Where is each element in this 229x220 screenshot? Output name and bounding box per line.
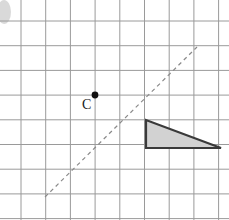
point-c-marker (92, 92, 99, 99)
geometry-figure: C (0, 0, 229, 220)
grid-vertical-lines (21, 0, 219, 220)
figure-canvas (0, 0, 229, 220)
grid-lines (0, 0, 229, 220)
grid-horizontal-lines (0, 21, 229, 219)
page-edge-smudge-icon (0, 0, 11, 24)
point-c-label: C (82, 98, 91, 112)
shaded-right-triangle (146, 120, 221, 148)
line-of-reflection (45, 47, 197, 197)
